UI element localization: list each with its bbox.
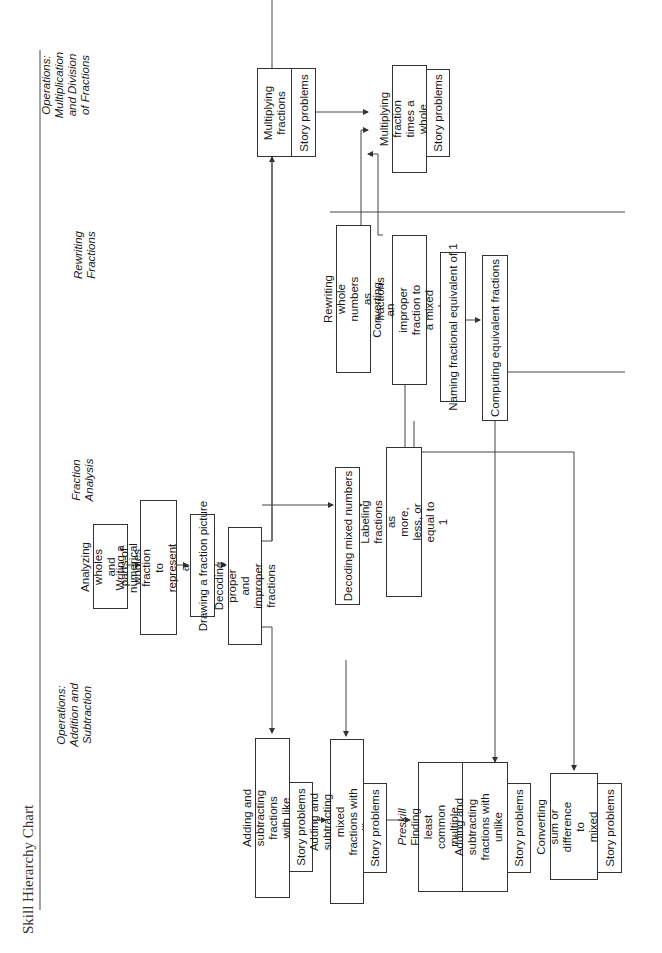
node-writing-numerical: Writing a numerical fraction to represen… xyxy=(140,500,177,635)
node-text: Naming fractional equivalent of 1 xyxy=(447,243,460,411)
node-converting-improper: Converting an improper fraction to a mix… xyxy=(392,235,427,385)
node-text: Story problems xyxy=(603,789,616,866)
node-text: Story problems xyxy=(297,74,310,151)
column-header-rewriting: Rewriting Fractions xyxy=(72,215,98,295)
node-naming-equivalent: Naming fractional equivalent of 1 xyxy=(440,252,466,402)
column-header-analysis: Fraction Analysis xyxy=(70,440,96,520)
node-labeling-fractions: Labeling fractions as more, less, or equ… xyxy=(386,447,422,597)
node-text: Computing equivalent fractions xyxy=(489,259,502,417)
node-text: Decoding proper and improper fractions xyxy=(213,562,278,611)
node-decoding-proper: Decoding proper and improper fractions xyxy=(228,527,262,645)
node-text: Drawing a fraction picture xyxy=(196,500,209,630)
node-multiplying-whole-story: Story problems xyxy=(426,69,450,157)
column-header-multiplication-text: Operations: Multiplication and Division … xyxy=(40,52,91,118)
column-header-analysis-text: Fraction Analysis xyxy=(70,459,95,502)
node-multiplying-fractions: Multiplying fractions xyxy=(257,68,292,157)
node-drawing-picture: Drawing a fraction picture xyxy=(190,514,215,617)
node-text: Multiplying fractions xyxy=(262,85,288,139)
column-header-addition-text: Operations: Addition and Subtraction xyxy=(55,683,93,747)
node-converting-sum: Converting sum or difference to mixed nu… xyxy=(550,773,598,880)
column-header-rewriting-text: Rewriting Fractions xyxy=(72,231,97,279)
node-add-sub-mixed: Adding and subtracting mixed fractions w… xyxy=(330,739,364,904)
node-add-sub-like: Adding and subtracting fractions with li… xyxy=(255,738,290,898)
column-header-multiplication: Operations: Multiplication and Division … xyxy=(40,40,92,130)
node-text: Story problems xyxy=(295,788,308,865)
page-title: Skill Hierarchy Chart xyxy=(20,805,37,934)
node-converting-sum-story: Story problems xyxy=(597,783,622,873)
preskill-label: Preskill xyxy=(395,808,407,845)
node-rewriting-whole: Rewriting whole numbers as fractions xyxy=(336,225,371,373)
node-text: Decoding mixed numbers xyxy=(341,471,354,601)
node-multiplying-whole: Multiplying fraction times a whole numbe… xyxy=(392,65,427,173)
node-add-sub-mixed-story: Story problems xyxy=(363,783,387,873)
node-add-sub-unlike: Adding and subtracting fractions with un… xyxy=(462,762,508,892)
node-text: Converting an improper fraction to a mix… xyxy=(371,282,449,338)
node-computing-equivalent: Computing equivalent fractions xyxy=(482,255,508,421)
node-text: Labeling fractions as more, less, or equ… xyxy=(359,500,450,543)
node-text: Story problems xyxy=(369,789,382,866)
node-text: Story problems xyxy=(432,74,445,151)
column-header-addition: Operations: Addition and Subtraction xyxy=(55,675,94,755)
node-add-sub-unlike-story: Story problems xyxy=(507,783,531,873)
node-multiplying-fractions-story: Story problems xyxy=(291,68,316,157)
node-decoding-mixed: Decoding mixed numbers xyxy=(335,467,360,605)
node-text: Story problems xyxy=(513,789,526,866)
